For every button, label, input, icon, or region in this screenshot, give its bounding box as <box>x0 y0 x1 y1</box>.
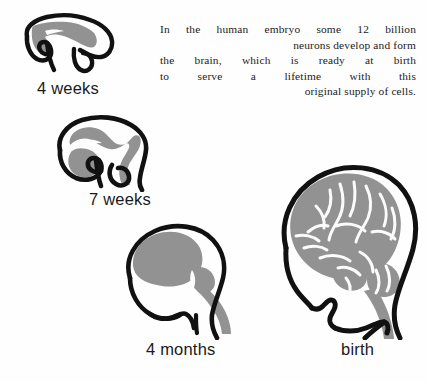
stage-label-4-weeks: 4 weeks <box>37 79 99 98</box>
caption-text: In the human embryo some 12 billion neur… <box>160 22 416 100</box>
stage-birth-illustration <box>268 160 420 340</box>
brain-development-figure: In the human embryo some 12 billion neur… <box>0 0 429 382</box>
stage-label-7-weeks: 7 weeks <box>89 190 151 209</box>
stage-label-4-months: 4 months <box>146 340 215 359</box>
stage-label-birth: birth <box>341 340 374 359</box>
caption-line-4: to serve a lifetime with this <box>160 69 416 85</box>
stage-7-weeks-illustration <box>46 112 166 192</box>
caption-line-3: the brain, which is ready at birth <box>160 53 416 69</box>
stage-4-months-illustration <box>108 218 253 340</box>
caption-line-5: original supply of cells. <box>160 84 416 100</box>
stage-4-weeks-illustration <box>14 12 126 80</box>
caption-line-1: In the human embryo some 12 billion <box>160 22 416 38</box>
caption-line-2: neurons develop and form <box>160 38 416 54</box>
